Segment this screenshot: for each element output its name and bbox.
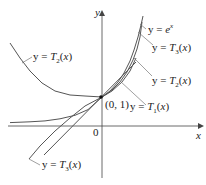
- plot-canvas: [0, 0, 206, 185]
- x-axis-label: x: [196, 129, 201, 141]
- label-t3-top: y = T3(x): [152, 41, 191, 56]
- label-t3-bottom: y = T3(x): [42, 158, 81, 173]
- taylor-polynomials-figure: y x 0 (0, 1) y = ex y = T3(x) y = T2(x) …: [0, 0, 206, 185]
- origin-label: 0: [93, 126, 99, 138]
- label-exp: y = ex: [148, 22, 173, 35]
- point-label: (0, 1): [105, 98, 129, 110]
- leader-t3-bottom: [29, 159, 40, 165]
- y-axis-label: y: [95, 6, 100, 18]
- leader-t2-right: [134, 58, 152, 76]
- leader-t2-left: [22, 57, 32, 63]
- curve-t3: [29, 22, 142, 159]
- label-t2-left: y = T2(x): [33, 50, 72, 65]
- curve-t2: [10, 43, 136, 97]
- point-0-1: [99, 95, 103, 99]
- label-t1: y = T1(x): [130, 100, 169, 115]
- label-t2-right: y = T2(x): [152, 74, 191, 89]
